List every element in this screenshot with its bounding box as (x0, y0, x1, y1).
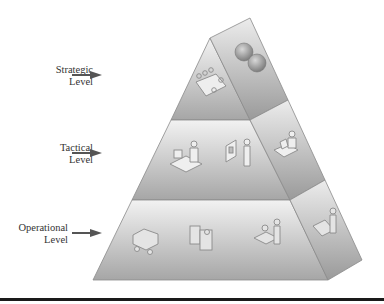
bottom-rule (0, 298, 384, 301)
tactical-arrow-icon (72, 149, 102, 157)
operational-label-line1: Operational (18, 222, 68, 234)
pyramid-diagram (0, 0, 384, 304)
strategic-arrow-icon (72, 71, 102, 79)
operational-level-label: Operational Level (18, 222, 68, 246)
operational-arrow-icon (72, 229, 102, 237)
operational-label-line2: Level (18, 234, 68, 246)
